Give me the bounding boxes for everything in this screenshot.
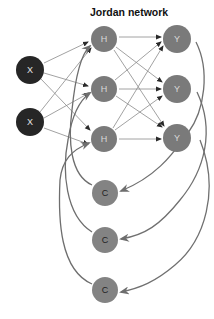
input-node-label: X <box>27 65 33 75</box>
hidden-layer: H H H <box>91 26 117 152</box>
edges-output-to-context <box>121 42 209 292</box>
hidden-node-label: H <box>101 84 108 94</box>
hidden-node-label: H <box>101 34 108 44</box>
edges-hidden-to-output <box>113 37 164 139</box>
output-node-label: Y <box>174 34 180 44</box>
input-node-label: X <box>27 117 33 127</box>
jordan-network-diagram: X X H H H Y Y Y C C C <box>0 0 214 319</box>
context-layer: C C C <box>92 180 118 303</box>
output-node-label: Y <box>174 133 180 143</box>
input-layer: X X <box>16 56 44 136</box>
context-node-label: C <box>102 235 109 245</box>
output-layer: Y Y Y <box>163 25 191 152</box>
context-node-label: C <box>102 285 109 295</box>
hidden-node-label: H <box>101 134 108 144</box>
context-node-label: C <box>102 188 109 198</box>
output-node-label: Y <box>174 84 180 94</box>
